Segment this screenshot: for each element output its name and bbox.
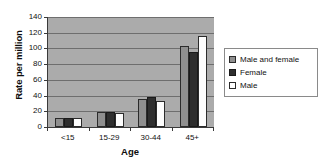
legend-item: Male xyxy=(229,79,314,92)
x-tick-label: 45+ xyxy=(167,133,217,142)
legend-swatch-icon xyxy=(229,69,236,76)
plot-area xyxy=(47,17,214,128)
y-tick-label: 20 xyxy=(16,107,42,115)
bar xyxy=(156,101,165,127)
legend-label: Female xyxy=(240,68,267,77)
y-tick-label: 100 xyxy=(16,44,42,52)
bar-chart: Rate per million 020406080100120140 <151… xyxy=(0,0,322,167)
legend-label: Male xyxy=(240,81,257,90)
y-tick-label: 40 xyxy=(16,92,42,100)
x-tick-mark xyxy=(130,128,131,131)
bar xyxy=(73,118,82,127)
bar xyxy=(55,118,64,127)
bar xyxy=(180,46,189,127)
y-tick-label: 60 xyxy=(16,76,42,84)
legend-swatch-icon xyxy=(229,82,236,89)
chart-legend: Male and femaleFemaleMale xyxy=(224,48,318,97)
bar xyxy=(189,52,198,127)
bar xyxy=(115,113,124,127)
bar-group xyxy=(97,17,124,127)
legend-item: Female xyxy=(229,66,314,79)
bar-group xyxy=(55,17,82,127)
bar xyxy=(138,99,147,127)
y-tick-label: 80 xyxy=(16,60,42,68)
y-tick-label: 140 xyxy=(16,13,42,21)
bar-group xyxy=(180,17,207,127)
bar xyxy=(106,112,115,127)
bar xyxy=(198,36,207,127)
x-tick-mark xyxy=(213,128,214,131)
y-tick-label: 0 xyxy=(16,123,42,131)
bar-group xyxy=(138,17,165,127)
x-tick-mark xyxy=(172,128,173,131)
bar xyxy=(64,118,73,127)
x-tick-mark xyxy=(89,128,90,131)
bar xyxy=(97,112,106,127)
y-tick-label: 120 xyxy=(16,29,42,37)
x-axis-title: Age xyxy=(47,146,213,157)
x-tick-mark xyxy=(47,128,48,131)
legend-label: Male and female xyxy=(240,55,299,64)
legend-item: Male and female xyxy=(229,53,314,66)
legend-swatch-icon xyxy=(229,56,236,63)
bar xyxy=(147,97,156,127)
